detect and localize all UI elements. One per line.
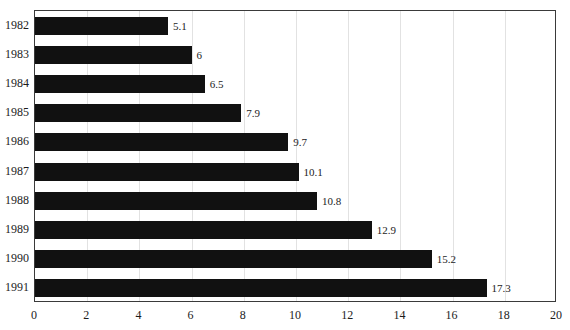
bar-value-label: 17.3	[492, 283, 511, 294]
bar-value-label: 12.9	[377, 225, 396, 236]
y-axis-tick-label: 1983	[5, 45, 29, 63]
x-axis-tick-label: 0	[31, 306, 37, 324]
bar-value-label: 9.7	[293, 137, 307, 148]
y-axis-tick-label: 1984	[5, 74, 29, 92]
x-axis-tick-label: 20	[550, 306, 562, 324]
bar[interactable]	[35, 133, 288, 151]
bar-row: 6.5	[35, 75, 555, 93]
x-axis-tick-label: 16	[446, 306, 458, 324]
bar-chart: 1982198319841985198619871988198919901991…	[0, 0, 570, 330]
bar-value-label: 6.5	[210, 79, 224, 90]
y-axis-tick-label: 1982	[5, 16, 29, 34]
y-axis-tick-label: 1986	[5, 132, 29, 150]
bar[interactable]	[35, 104, 241, 122]
bar-row: 5.1	[35, 17, 555, 35]
x-axis-tick-label: 2	[83, 306, 89, 324]
chart-title	[0, 0, 570, 5]
bar-row: 15.2	[35, 250, 555, 268]
bar[interactable]	[35, 279, 487, 297]
bar-row: 9.7	[35, 133, 555, 151]
x-axis-tick-label: 8	[240, 306, 246, 324]
bar[interactable]	[35, 75, 205, 93]
x-axis-tick-label: 6	[188, 306, 194, 324]
x-axis-tick-label: 10	[289, 306, 301, 324]
bar-value-label: 7.9	[246, 108, 260, 119]
y-axis-tick-label: 1991	[5, 278, 29, 296]
x-axis-tick-label: 12	[341, 306, 353, 324]
bar-value-label: 10.8	[322, 196, 341, 207]
bar-row: 10.8	[35, 192, 555, 210]
bar[interactable]	[35, 250, 432, 268]
y-axis-tick-label: 1989	[5, 220, 29, 238]
bar-row: 7.9	[35, 104, 555, 122]
x-axis-tick-label: 18	[498, 306, 510, 324]
bar-value-label: 15.2	[437, 254, 456, 265]
y-axis-tick-label: 1990	[5, 249, 29, 267]
bars-layer: 5.166.57.99.710.110.812.915.217.3	[35, 11, 555, 301]
bar-row: 17.3	[35, 279, 555, 297]
bar[interactable]	[35, 192, 317, 210]
bar[interactable]	[35, 221, 372, 239]
plot-area: 5.166.57.99.710.110.812.915.217.3	[34, 10, 556, 302]
bar-value-label: 10.1	[304, 167, 323, 178]
bar-row: 10.1	[35, 163, 555, 181]
y-axis-labels: 1982198319841985198619871988198919901991	[0, 10, 34, 302]
y-axis-tick-label: 1988	[5, 191, 29, 209]
bar-row: 12.9	[35, 221, 555, 239]
x-axis-labels: 02468101214161820	[34, 306, 556, 326]
bar-value-label: 5.1	[173, 21, 187, 32]
y-axis-tick-label: 1985	[5, 103, 29, 121]
y-axis-tick-label: 1987	[5, 162, 29, 180]
bar-value-label: 6	[197, 50, 203, 61]
x-axis-tick-label: 14	[393, 306, 405, 324]
bar[interactable]	[35, 46, 192, 64]
bar[interactable]	[35, 163, 299, 181]
bar[interactable]	[35, 17, 168, 35]
x-axis-tick-label: 4	[135, 306, 141, 324]
bar-row: 6	[35, 46, 555, 64]
